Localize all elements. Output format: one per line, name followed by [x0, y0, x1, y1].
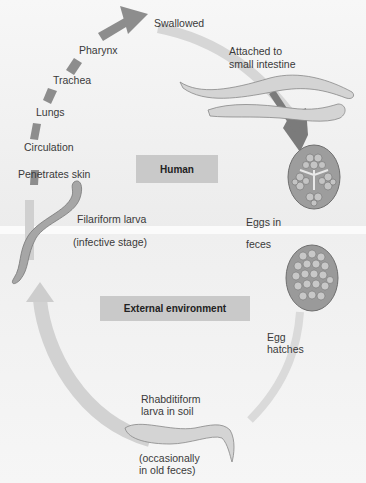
label-hatches: hatches — [267, 343, 304, 356]
up-arrow-head — [26, 282, 54, 302]
external-zone-label: External environment — [100, 296, 250, 321]
label-circulation: Circulation — [24, 141, 74, 154]
adult-worms-icon — [180, 75, 354, 121]
label-occasionally-line2: in old feces) — [139, 464, 196, 477]
label-attached-line1: Attached to — [229, 45, 282, 58]
label-feces: feces — [246, 238, 271, 251]
label-pharynx: Pharynx — [79, 44, 118, 57]
label-attached-line2: small intestine — [229, 58, 296, 71]
label-infective-stage: (infective stage) — [73, 236, 147, 249]
label-rhabditiform-line2: larva in soil — [141, 405, 194, 418]
label-filariform-larva: Filariform larva — [77, 213, 146, 226]
egg-morula-icon — [286, 245, 338, 311]
label-penetrates-skin: Penetrates skin — [18, 168, 90, 181]
hatching-path — [250, 312, 300, 420]
migration-arrow — [30, 6, 148, 185]
label-swallowed: Swallowed — [154, 17, 204, 30]
return-arc — [40, 300, 150, 440]
human-zone-label: Human — [136, 155, 218, 183]
label-lungs: Lungs — [36, 106, 65, 119]
filariform-larva-icon — [12, 181, 81, 284]
label-eggs-in: Eggs in — [246, 216, 281, 229]
egg-cleaved-icon — [288, 145, 340, 209]
label-trachea: Trachea — [53, 74, 91, 87]
